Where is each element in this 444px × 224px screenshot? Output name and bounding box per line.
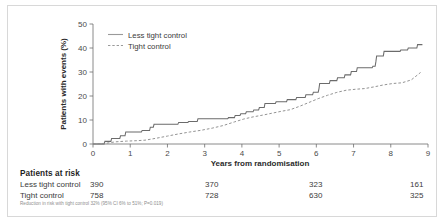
kaplan-meier-plot: 01020304050 0123456789 Less tight contro… [8, 6, 436, 171]
risk-value-tight-1: 728 [205, 190, 218, 201]
x-tick-label-8: 8 [389, 149, 394, 158]
table-row: Less tight control 390 370 323 161 [20, 179, 430, 190]
risk-value-less-tight-0: 390 [90, 179, 103, 190]
risk-value-tight-3: 325 [410, 190, 423, 201]
y-tick-label-50: 50 [78, 20, 87, 29]
risk-value-less-tight-1: 370 [205, 179, 218, 190]
x-tick-label-3: 3 [202, 149, 207, 158]
x-tick-label-6: 6 [314, 149, 319, 158]
x-tick-label-4: 4 [240, 149, 245, 158]
patients-at-risk-table: Patients at risk Less tight control 390 … [20, 169, 430, 201]
y-tick-label-30: 30 [78, 68, 87, 77]
curve-less-tight-control [93, 45, 422, 144]
y-axis-title: Patients with events (%) [59, 38, 68, 130]
legend-label-less-tight-control: Less tight control [128, 31, 187, 40]
table-row: Tight control 758 728 630 325 [20, 190, 430, 201]
curve-tight-control [93, 72, 421, 144]
figure-footnote: Reduction in risk with tight control 32%… [20, 201, 163, 206]
risk-value-tight-2: 630 [309, 190, 322, 201]
x-axis-ticks: 0123456789 [91, 144, 431, 158]
x-tick-label-5: 5 [277, 149, 282, 158]
x-axis-title: Years from randomisation [211, 159, 310, 168]
y-tick-label-40: 40 [78, 44, 87, 53]
x-tick-label-0: 0 [91, 149, 96, 158]
legend-label-tight-control: Tight control [128, 42, 171, 51]
risk-row-label-tight-control: Tight control [20, 190, 64, 201]
figure-panel: 01020304050 0123456789 Less tight contro… [7, 5, 437, 217]
patients-at-risk-title: Patients at risk [20, 169, 430, 178]
risk-value-less-tight-3: 161 [410, 179, 423, 190]
x-tick-label-1: 1 [128, 149, 133, 158]
risk-row-label-less-tight-control: Less tight control [20, 179, 80, 190]
y-axis-ticks: 01020304050 [78, 20, 93, 149]
y-tick-label-10: 10 [78, 116, 87, 125]
x-tick-label-7: 7 [351, 149, 356, 158]
y-tick-label-0: 0 [83, 140, 88, 149]
y-tick-label-20: 20 [78, 92, 87, 101]
x-tick-label-2: 2 [165, 149, 170, 158]
risk-value-less-tight-2: 323 [309, 179, 322, 190]
x-tick-label-9: 9 [426, 149, 431, 158]
legend: Less tight control Tight control [108, 31, 187, 51]
risk-value-tight-0: 758 [90, 190, 103, 201]
